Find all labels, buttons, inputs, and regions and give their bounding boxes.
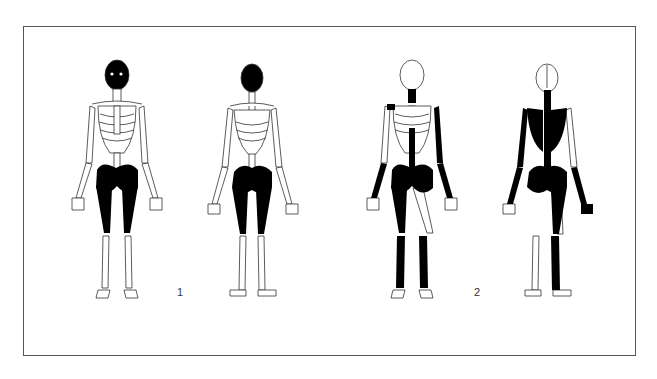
skeleton-2-posterior <box>495 62 605 307</box>
skeleton-2-anterior <box>357 58 467 308</box>
panel-label-1: 1 <box>177 286 183 298</box>
skeleton-1-posterior <box>200 62 310 307</box>
panel-label-2: 2 <box>474 286 480 298</box>
skeleton-1-anterior <box>62 58 172 308</box>
